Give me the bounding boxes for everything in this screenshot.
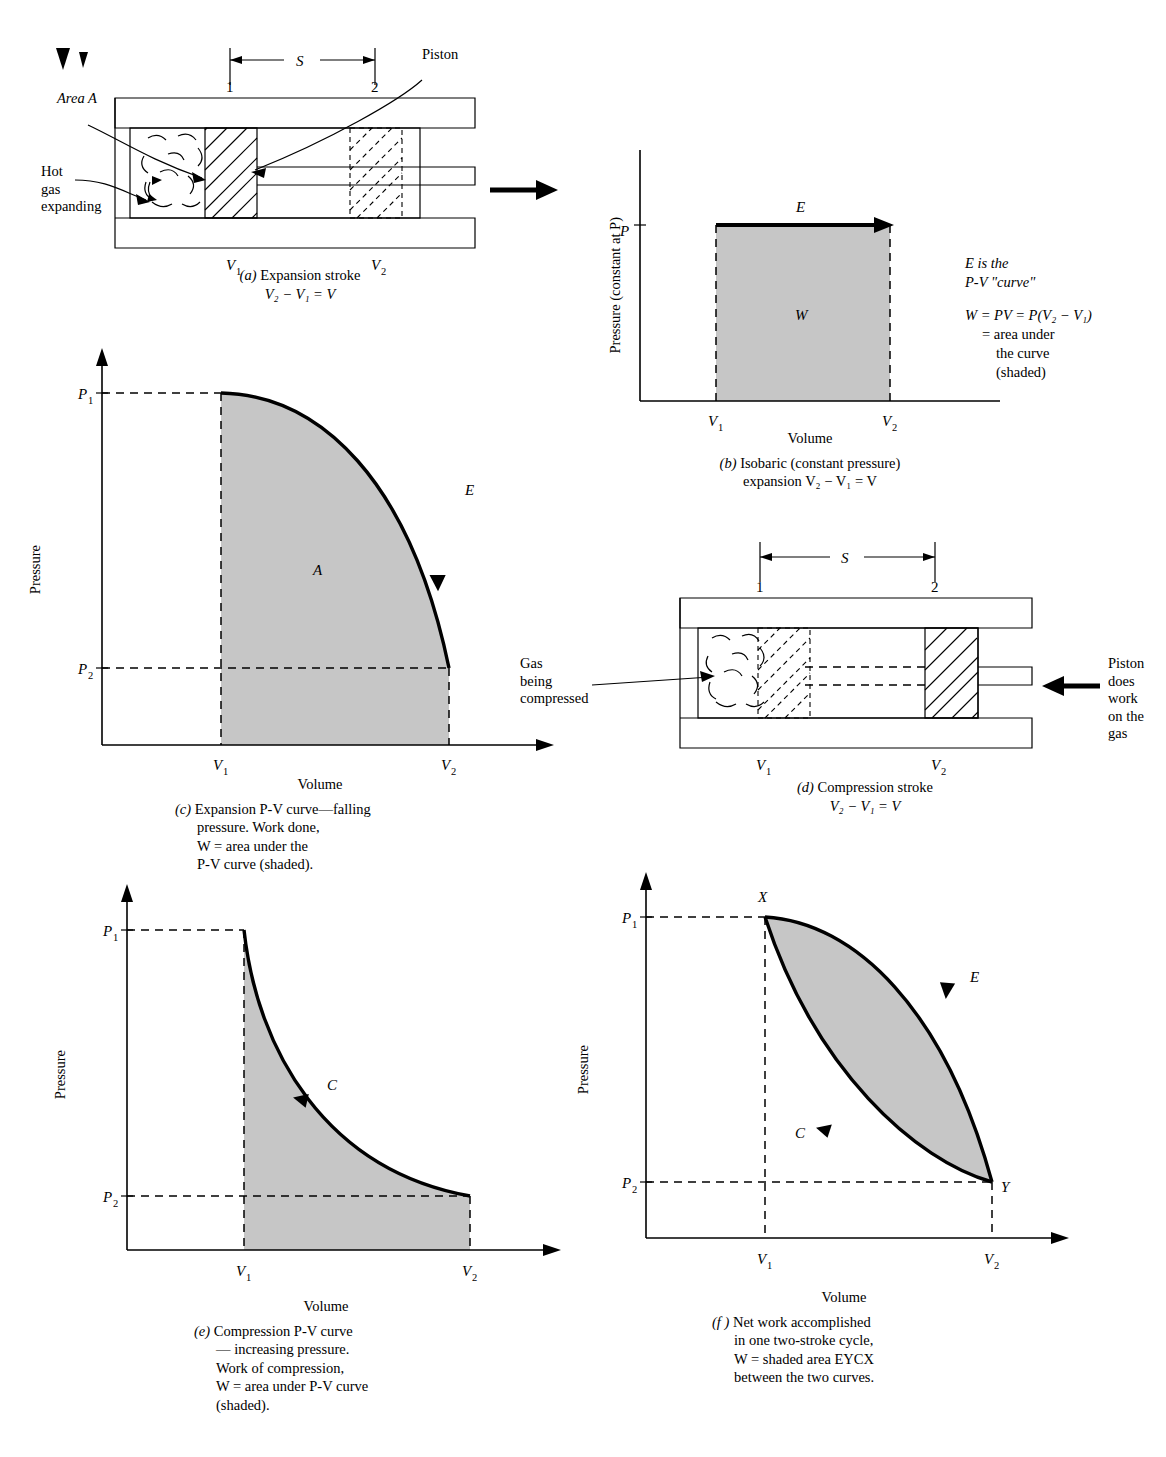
point-label-Y: Y: [1001, 1179, 1011, 1195]
caption-d: (d) Compression stroke V₂ − V₁ = V: [715, 778, 1015, 815]
curve-label-E-c: E: [464, 482, 474, 498]
area-label-A-c: A: [312, 562, 323, 578]
curve-label-E: E: [795, 199, 805, 215]
cylinder-bottom-wall-d: [680, 598, 1032, 748]
position-label-2: 2: [371, 79, 379, 95]
stroke-arrow-left-d: [760, 553, 772, 561]
y-tick-label-p1-sub-f: 1: [632, 919, 637, 930]
stroke-label-S-d: S: [841, 550, 849, 566]
y-axis-arrowhead-c: [96, 348, 108, 366]
position-label-1-d: 1: [756, 579, 764, 595]
gas-swirls-d: [706, 634, 764, 706]
y-tick-label-p1-c: P: [77, 386, 87, 402]
piston-rod: [257, 167, 475, 185]
x-tick-label-v1-sub-e: 1: [246, 1272, 251, 1283]
shaded-area-A: [221, 393, 449, 745]
volume-label-v1-sub-d: 1: [766, 766, 771, 777]
y-axis-label-e: Pressure: [52, 975, 69, 1175]
panel-c-expansion-pv-chart: P 1 P 2 V 1 V 2 E A: [70, 340, 570, 770]
caption-c: Volume (c) Expansion P-V curve—falling p…: [175, 775, 475, 874]
x-axis-label-e: Volume: [162, 1297, 490, 1316]
stroke-label-S: S: [296, 53, 304, 69]
x-tick-label-v1-sub-f: 1: [767, 1260, 772, 1271]
area-label-W: W: [795, 307, 809, 323]
label-piston-does-work: Piston does work on the gas: [1108, 655, 1166, 743]
curve-E-arrowhead-f: [934, 977, 955, 999]
piston-position-1: [205, 128, 257, 218]
x-axis-arrowhead-e: [543, 1244, 561, 1256]
volume-label-v2-sub-d: 2: [941, 766, 946, 777]
y-tick-label-p2-sub-f: 2: [632, 1184, 637, 1195]
point-label-X: X: [757, 889, 768, 905]
gas-arrow-b: [147, 194, 157, 202]
cylinder-top-wall-d: [680, 598, 1032, 628]
x-tick-label-v2-sub-f: 2: [994, 1260, 999, 1271]
caption-a: (a) Expansion stroke V₂ − V₁ = V: [150, 266, 450, 303]
leader-piston: [255, 80, 422, 170]
caption-b: Volume (b) Isobaric (constant pressure) …: [665, 429, 955, 491]
piston-position-2-d: [925, 628, 978, 718]
piston-position-2-ghost: [350, 128, 402, 218]
y-axis-label-b: Pressure (constant at P): [607, 170, 624, 400]
y-tick-label-p1-sub-c: 1: [88, 395, 93, 406]
y-axis-arrowhead-f: [640, 872, 652, 890]
y-axis-arrowhead-e: [121, 884, 133, 902]
motion-arrow-right: [490, 180, 558, 200]
x-axis-label-b: Volume: [665, 429, 955, 448]
cylinder-top-wall: [115, 98, 475, 128]
y-tick-label-p1-sub-e: 1: [113, 932, 118, 943]
panel-e-compression-pv-chart: P 1 P 2 V 1 V 2 C: [95, 880, 575, 1280]
piston-position-1-ghost-d: [758, 628, 810, 718]
y-axis-label-c: Pressure: [27, 470, 44, 670]
label-gas-being-compressed: Gas being compressed: [520, 655, 610, 708]
curve-label-C-e: C: [327, 1077, 338, 1093]
x-axis-label-c: Volume: [165, 775, 475, 794]
y-axis-label-f: Pressure: [575, 970, 592, 1170]
position-label-2-d: 2: [931, 579, 939, 595]
x-axis-arrowhead-c: [536, 739, 554, 751]
note-b-explanation: E is the P-V "curve" W = PV = P(V₂ − V₁)…: [965, 254, 1160, 382]
x-axis-arrowhead-f: [1051, 1232, 1069, 1244]
position-label-1: 1: [226, 79, 234, 95]
x-axis-label-f: Volume: [678, 1288, 1010, 1307]
shaded-area-EYCX: [765, 917, 992, 1182]
y-tick-label-p2-sub-c: 2: [88, 670, 93, 681]
curve-label-E-f: E: [969, 969, 979, 985]
leader-gas-compressed-arrow: [700, 671, 715, 682]
gas-arrow-a: [152, 176, 162, 185]
y-tick-label-p2-e: P: [102, 1189, 112, 1205]
gas-swirls: [142, 134, 202, 206]
leader-area-a-arrow: [192, 172, 206, 183]
cylinder-bottom-wall: [115, 98, 475, 248]
label-hot-gas-expanding: Hot gas expanding: [41, 163, 121, 216]
y-tick-label-p2-c: P: [77, 661, 87, 677]
stroke-arrow-left: [230, 56, 242, 64]
y-tick-label-p1-f: P: [621, 910, 631, 926]
shaded-area-e: [244, 930, 470, 1250]
y-tick-label-p1-e: P: [102, 923, 112, 939]
panel-f-net-work-chart: P 1 P 2 V 1 V 2 X Y E C: [615, 870, 1085, 1270]
label-piston: Piston: [422, 46, 458, 64]
curve-C-arrowhead-f: [814, 1120, 832, 1138]
motion-arrow-left-d: [1042, 676, 1100, 696]
y-tick-label-p2-f: P: [621, 1175, 631, 1191]
x-tick-label-v2-sub-e: 2: [472, 1272, 477, 1283]
caption-f: Volume (f ) Net work accomplished in one…: [690, 1288, 1010, 1387]
cylinder-bore: [130, 128, 420, 218]
panel-b-isobaric-chart: P E W V 1 V 2: [600, 150, 1020, 440]
caption-e: Volume (e) Compression P-V curve — incre…: [170, 1297, 490, 1414]
curve-label-C-f: C: [795, 1125, 806, 1141]
piston-rod-d: [978, 667, 1032, 685]
label-area-a: Area A: [57, 90, 97, 108]
stroke-arrow-right-d: [923, 553, 935, 561]
y-tick-label-p2-sub-e: 2: [113, 1198, 118, 1209]
stroke-arrow-right: [363, 56, 375, 64]
